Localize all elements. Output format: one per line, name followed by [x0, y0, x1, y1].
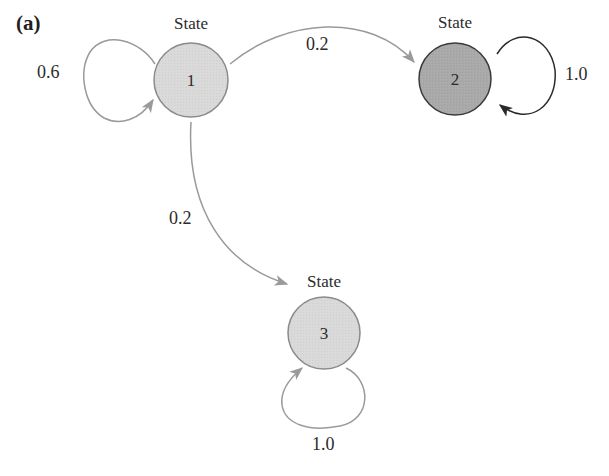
transition-label-1-3: 0.2: [169, 208, 192, 228]
state-node-3: State 3: [288, 272, 360, 369]
panel-label: (a): [16, 11, 41, 35]
state-number: 2: [451, 70, 460, 89]
state-number: 3: [320, 324, 329, 343]
state-node-2: State 2: [419, 13, 491, 115]
arrow-icon: [191, 122, 287, 284]
transition-label-1-1: 0.6: [37, 62, 60, 82]
transition-label-2-2: 1.0: [565, 64, 588, 84]
self-loop-arrow-icon: [84, 40, 155, 122]
state-title: State: [307, 272, 341, 291]
state-number: 1: [187, 71, 196, 90]
state-node-1: State 1: [154, 14, 228, 117]
markov-chain-diagram: (a) 0.6 0.2 0.2 1.0 1.0 State 1 State 2: [0, 0, 609, 476]
transition-3-to-3: 1.0: [282, 368, 365, 454]
transition-1-to-2: 0.2: [230, 27, 414, 64]
transition-label-1-2: 0.2: [306, 34, 329, 54]
transition-1-to-1: 0.6: [37, 40, 155, 122]
transition-1-to-3: 0.2: [169, 122, 287, 284]
state-title: State: [174, 14, 208, 33]
self-loop-arrow-icon: [497, 37, 555, 114]
transition-2-to-2: 1.0: [497, 37, 588, 114]
self-loop-arrow-icon: [282, 368, 365, 428]
state-title: State: [438, 13, 472, 32]
transition-label-3-3: 1.0: [312, 434, 335, 454]
